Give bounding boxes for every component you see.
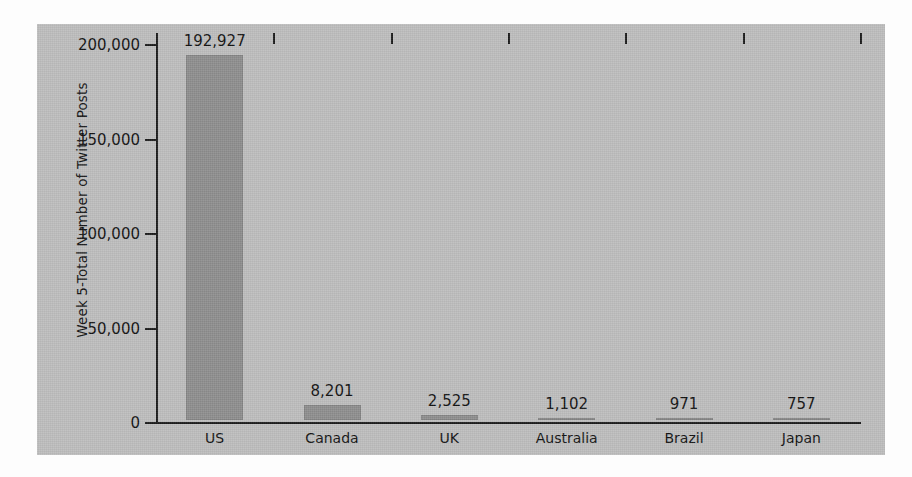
x-axis-tick-mark [743, 33, 745, 44]
bar: 2,525 [421, 415, 478, 420]
bar-value-label: 1,102 [545, 395, 588, 413]
bar-value-label: 2,525 [428, 392, 471, 410]
x-axis-category-label: UK [440, 430, 459, 446]
y-axis-tick-label: 0 [130, 414, 140, 432]
x-axis-category-label: Brazil [664, 430, 703, 446]
x-axis-category-label: Australia [536, 430, 598, 446]
bar: 8,201 [304, 405, 361, 420]
x-axis-line [156, 422, 861, 424]
y-axis-tick-label: 200,000 [78, 36, 140, 54]
x-axis-tick-mark [625, 33, 627, 44]
x-axis-category-label: Japan [782, 430, 821, 446]
bar: 1,102 [538, 418, 595, 421]
chart-page: Week 5-Total Number of Twitter Posts 050… [0, 0, 912, 477]
x-axis-tick-mark [508, 33, 510, 44]
bar: 757 [773, 418, 830, 421]
bar-value-label: 192,927 [184, 32, 246, 50]
plot-area: 050,000100,000150,000200,000 192,9278,20… [156, 44, 860, 422]
y-axis-tick-mark [145, 44, 156, 46]
y-axis-tick-mark [145, 328, 156, 330]
bar: 971 [656, 418, 713, 421]
x-axis-tick-mark [156, 33, 158, 44]
x-axis-category-label: Canada [305, 430, 358, 446]
y-axis-tick-label: 100,000 [78, 225, 140, 243]
bar-value-label: 757 [787, 395, 816, 413]
y-axis-tick-mark [145, 233, 156, 235]
y-axis-tick-mark [145, 422, 156, 424]
y-axis-tick-label: 50,000 [88, 320, 141, 338]
bar-value-label: 8,201 [311, 382, 354, 400]
chart-panel: Week 5-Total Number of Twitter Posts 050… [37, 24, 885, 455]
y-axis-tick-label: 150,000 [78, 131, 140, 149]
y-axis-line [156, 44, 158, 423]
x-axis-tick-mark [273, 33, 275, 44]
x-axis-tick-mark [391, 33, 393, 44]
bar-value-label: 971 [670, 395, 699, 413]
bar: 192,927 [186, 55, 243, 420]
x-axis-tick-mark [860, 33, 862, 44]
x-axis-category-label: US [205, 430, 224, 446]
y-axis-tick-mark [145, 139, 156, 141]
